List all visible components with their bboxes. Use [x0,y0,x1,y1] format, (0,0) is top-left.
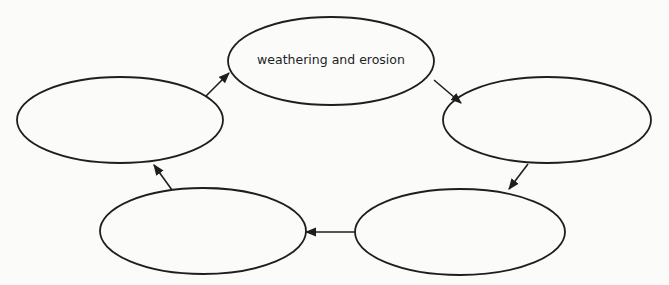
arrow-right-to-bottom-right [509,164,528,189]
node-left-ellipse[interactable] [17,77,223,163]
node-bottom-right-ellipse[interactable] [355,189,565,275]
node-bottom-right [355,189,565,275]
node-bottom-left [100,188,306,274]
rock-cycle-diagram: weathering and erosion [0,0,669,285]
node-right [443,77,651,163]
node-bottom-left-ellipse[interactable] [100,188,306,274]
node-top: weathering and erosion [228,17,434,105]
arrow-bottom-left-to-left [154,165,172,190]
arrow-left-to-top [206,73,229,96]
node-top-label: weathering and erosion [257,52,405,67]
node-right-ellipse[interactable] [443,77,651,163]
node-left [17,77,223,163]
